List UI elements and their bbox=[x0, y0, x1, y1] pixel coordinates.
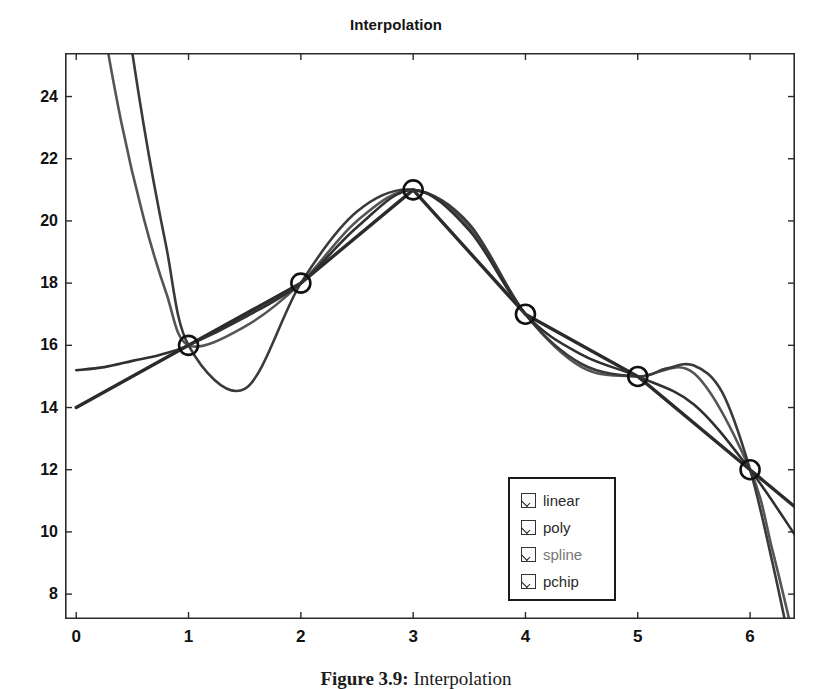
interpolation-line-chart bbox=[65, 53, 795, 619]
legend-item-spline[interactable]: spline bbox=[521, 541, 582, 567]
axis-ticks bbox=[65, 53, 795, 619]
y-tick-label: 12 bbox=[18, 461, 58, 479]
x-tick-label: 3 bbox=[393, 627, 433, 647]
legend-item-label: spline bbox=[543, 546, 582, 563]
checkmark-icon[interactable] bbox=[521, 547, 536, 562]
series-line-pchip bbox=[76, 190, 795, 535]
x-tick-label: 5 bbox=[618, 627, 658, 647]
checkmark-icon[interactable] bbox=[521, 574, 536, 589]
y-tick-label: 10 bbox=[18, 523, 58, 541]
x-tick-label: 1 bbox=[169, 627, 209, 647]
figure-container: Interpolation 81012141618202224 0123456 … bbox=[0, 0, 832, 689]
axis-lines bbox=[65, 53, 795, 619]
x-tick-label: 6 bbox=[730, 627, 770, 647]
figure-caption: Figure 3.9: Interpolation bbox=[0, 668, 832, 689]
plot-area bbox=[65, 53, 795, 619]
page-title: Interpolation bbox=[0, 16, 812, 33]
legend-item-poly[interactable]: poly bbox=[521, 514, 571, 540]
y-tick-label: 20 bbox=[18, 212, 58, 230]
y-tick-label: 8 bbox=[18, 585, 58, 603]
y-tick-label: 22 bbox=[18, 150, 58, 168]
x-tick-label: 0 bbox=[56, 627, 96, 647]
legend-item-linear[interactable]: linear bbox=[521, 487, 580, 513]
x-tick-label: 2 bbox=[281, 627, 321, 647]
x-axis-tick-labels: 0123456 bbox=[0, 627, 832, 657]
y-axis-tick-labels: 81012141618202224 bbox=[10, 0, 58, 689]
caption-text: Interpolation bbox=[409, 668, 512, 689]
checkmark-icon[interactable] bbox=[521, 493, 536, 508]
legend-item-label: pchip bbox=[543, 573, 579, 590]
legend-box[interactable]: linearpolysplinepchip bbox=[508, 477, 616, 601]
legend-item-label: linear bbox=[543, 492, 580, 509]
caption-number: Figure 3.9: bbox=[320, 668, 408, 689]
y-tick-label: 18 bbox=[18, 274, 58, 292]
y-tick-label: 24 bbox=[18, 88, 58, 106]
legend-item-pchip[interactable]: pchip bbox=[521, 568, 579, 594]
x-tick-label: 4 bbox=[505, 627, 545, 647]
y-tick-label: 16 bbox=[18, 336, 58, 354]
legend-item-label: poly bbox=[543, 519, 571, 536]
y-tick-label: 14 bbox=[18, 399, 58, 417]
checkmark-icon[interactable] bbox=[521, 520, 536, 535]
